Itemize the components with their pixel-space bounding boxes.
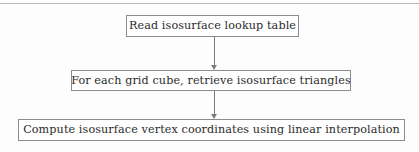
flowchart-node-label: Read isosurface lookup table xyxy=(125,20,300,31)
flowchart-diagram: Read isosurface lookup table For each gr… xyxy=(0,0,419,152)
flowchart-node-interpolate[interactable]: Compute isosurface vertex coordinates us… xyxy=(18,119,405,141)
flowchart-connector-read-table-to-grid-cube xyxy=(210,37,219,70)
connector-line xyxy=(214,91,215,116)
flowchart-node-label: Compute isosurface vertex coordinates us… xyxy=(19,124,404,135)
flowchart-node-read-table[interactable]: Read isosurface lookup table xyxy=(126,15,299,37)
top-divider-rule xyxy=(0,3,419,4)
flowchart-node-label: For each grid cube, retrieve isosurface … xyxy=(67,75,355,86)
flowchart-connector-grid-cube-to-interpolate xyxy=(210,91,219,119)
flowchart-node-grid-cube[interactable]: For each grid cube, retrieve isosurface … xyxy=(71,70,351,91)
connector-line xyxy=(214,37,215,67)
